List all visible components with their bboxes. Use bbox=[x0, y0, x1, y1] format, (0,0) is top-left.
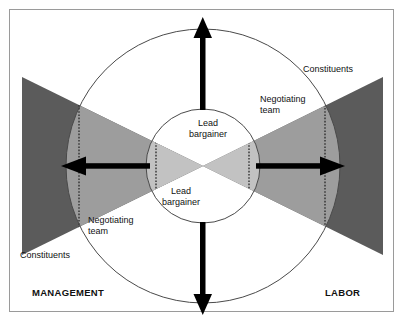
arrow-up-icon bbox=[194, 17, 213, 110]
label-lead-bargainer-bottom-line2: bargainer bbox=[151, 197, 211, 208]
arrow-up-head bbox=[194, 17, 213, 38]
label-constituents-right: Constituents bbox=[303, 64, 353, 75]
label-lead-bargainer-top-line1: Lead bbox=[178, 118, 238, 129]
label-negotiating-team-left-line2: team bbox=[88, 226, 108, 237]
arrow-down-shaft bbox=[200, 222, 206, 300]
label-negotiating-team-left-line1: Negotiating bbox=[88, 215, 134, 226]
arrow-right-shaft bbox=[256, 163, 323, 169]
label-negotiating-team-right-line1: Negotiating bbox=[260, 94, 306, 105]
label-lead-bargainer-top-line2: bargainer bbox=[178, 129, 238, 140]
diagram-figure: Constituents Constituents Negotiating te… bbox=[0, 0, 406, 329]
arrow-left-shaft bbox=[83, 163, 150, 169]
label-constituents-left: Constituents bbox=[20, 250, 70, 261]
label-lead-bargainer-bottom-line1: Lead bbox=[151, 186, 211, 197]
label-management: MANAGEMENT bbox=[32, 287, 104, 298]
arrow-down-icon bbox=[194, 222, 213, 315]
arrow-down-head bbox=[194, 294, 213, 315]
arrow-up-shaft bbox=[200, 32, 206, 110]
label-negotiating-team-right-line2: team bbox=[260, 105, 280, 116]
diagram-canvas bbox=[0, 0, 406, 329]
label-labor: LABOR bbox=[325, 287, 360, 298]
